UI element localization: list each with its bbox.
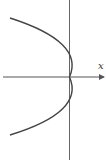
x-axis-label: x: [98, 60, 104, 71]
parabola-diagram: [0, 0, 106, 168]
